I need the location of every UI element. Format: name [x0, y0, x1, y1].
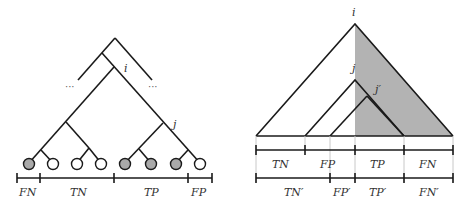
- row1-bar: [256, 145, 453, 155]
- node-label-i-right: i: [352, 6, 356, 19]
- row2-label-tn-prime: TN′: [284, 186, 304, 199]
- leaf-node-filled: [120, 159, 131, 170]
- segment-label-tn: TN: [70, 186, 87, 199]
- row2-label-fn-prime: FN′: [418, 186, 439, 199]
- diagram-canvas: ··· ··· i j FN TN TP FP i j j′: [0, 0, 466, 211]
- leaf-node-filled: [171, 159, 182, 170]
- row2-bar: [256, 173, 453, 183]
- node-label-j: j: [170, 118, 177, 131]
- ellipsis-left: ···: [65, 81, 75, 92]
- row1-label-tn: TN: [272, 158, 289, 171]
- row1-label-fp: FP: [319, 158, 336, 171]
- edge: [78, 38, 115, 80]
- left-baseline: [17, 173, 212, 183]
- edge: [66, 122, 89, 148]
- leaf-node-empty: [195, 159, 206, 170]
- row2-label-tp-prime: TP′: [369, 186, 387, 199]
- leaf-nodes: [24, 159, 206, 170]
- leaf-node-empty: [72, 159, 83, 170]
- leaf-node-filled: [24, 159, 35, 170]
- node-label-i: i: [124, 62, 128, 75]
- node-label-j-right: j: [349, 62, 356, 75]
- edge: [102, 53, 200, 163]
- ellipsis-right: ···: [148, 81, 158, 92]
- row2-label-fp-prime: FP′: [332, 186, 351, 199]
- segment-label-fp: FP: [190, 186, 207, 199]
- leaf-node-empty: [48, 159, 59, 170]
- left-tree: [29, 38, 200, 163]
- edge: [125, 123, 163, 163]
- leaf-node-filled: [146, 159, 157, 170]
- segment-label-fn: FN: [18, 186, 37, 199]
- row1-label-tp: TP: [370, 158, 385, 171]
- row1-label-fn: FN: [418, 158, 437, 171]
- leaf-node-empty: [96, 159, 107, 170]
- segment-label-tp: TP: [144, 186, 159, 199]
